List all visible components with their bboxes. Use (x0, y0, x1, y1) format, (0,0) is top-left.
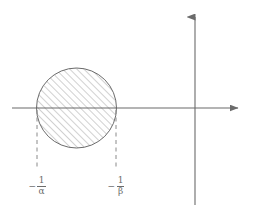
label-minus-one-over-alpha: − 1 α (17, 176, 57, 196)
fraction-one-over-alpha: 1 α (37, 176, 45, 196)
numerator-alpha: 1 (38, 176, 46, 186)
minus-sign-beta: − (108, 182, 116, 191)
denominator-beta: β (117, 187, 124, 197)
figure-canvas: − 1 α − 1 β (0, 0, 255, 211)
fraction-one-over-beta: 1 β (117, 176, 125, 196)
minus-sign-alpha: − (28, 182, 36, 191)
numerator-beta: 1 (117, 176, 125, 186)
label-minus-one-over-beta: − 1 β (96, 176, 136, 196)
denominator-alpha: α (37, 187, 45, 197)
